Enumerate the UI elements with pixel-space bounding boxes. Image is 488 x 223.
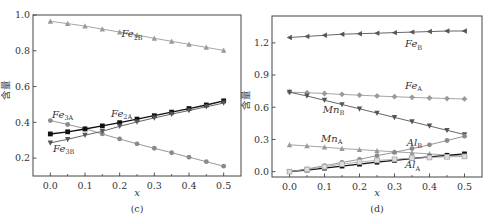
triangle-left-marker <box>392 30 397 35</box>
series-fea: FeA <box>287 80 468 102</box>
y-tick-label: 0.2 <box>15 152 30 163</box>
triangle-left-marker <box>374 30 379 35</box>
diamond-marker <box>427 95 433 101</box>
x-tick-label: 0.0 <box>282 181 297 192</box>
x-tick-label: 0.5 <box>216 180 231 191</box>
x-tick-label: 0.2 <box>352 181 367 192</box>
open-square-marker <box>462 154 467 159</box>
circle-marker <box>65 122 70 127</box>
square-marker <box>83 127 88 132</box>
series-label: Fe2B <box>120 28 142 42</box>
circle-marker <box>135 141 140 146</box>
series-fe3b: Fe3B <box>48 101 227 157</box>
square-marker <box>65 129 70 134</box>
series-label: Fe2A <box>110 108 132 122</box>
circle-marker <box>117 137 122 142</box>
series-fe2b: Fe2B <box>48 18 227 52</box>
circle-marker <box>445 138 450 143</box>
open-square-marker <box>287 169 292 174</box>
circle-marker <box>427 142 432 147</box>
x-tick-label: 0.5 <box>457 181 472 192</box>
x-axis-label: x <box>134 187 140 198</box>
x-tick-label: 0.0 <box>43 180 58 191</box>
diamond-marker <box>322 91 328 97</box>
triangle-left-marker <box>409 29 414 34</box>
open-square-marker <box>375 158 380 163</box>
open-square-marker <box>392 157 397 162</box>
x-tick-label: 0.3 <box>387 181 402 192</box>
series-label: FeA <box>404 80 422 94</box>
y-tick-label: 1.0 <box>15 9 30 20</box>
circle-marker <box>204 159 209 164</box>
diamond-marker <box>444 96 450 102</box>
open-square-marker <box>340 162 345 167</box>
triangle-left-marker <box>427 29 432 34</box>
diamond-marker <box>374 93 380 99</box>
y-tick-label: 1.2 <box>254 37 269 48</box>
open-square-marker <box>427 155 432 160</box>
triangle-left-marker <box>339 32 344 37</box>
chart-figure: 0.00.10.20.30.40.5x0.20.40.60.81.0含量Fe2B… <box>0 0 488 223</box>
series-label: MnB <box>322 104 345 118</box>
triangle-left-marker <box>444 28 449 33</box>
diamond-marker <box>357 92 363 98</box>
chart-panel-d: 0.00.10.20.30.40.5x0.00.30.60.91.2含量FeBF… <box>240 16 482 214</box>
series-label: AlA <box>404 159 420 173</box>
triangle-left-marker <box>357 31 362 36</box>
y-tick-label: 0.0 <box>254 166 269 177</box>
y-tick-label: 0.9 <box>254 69 269 80</box>
x-tick-label: 0.1 <box>77 180 92 191</box>
circle-marker <box>462 134 467 139</box>
x-tick-label: 0.1 <box>317 181 332 192</box>
x-tick-label: 0.4 <box>422 181 437 192</box>
square-marker <box>48 132 53 137</box>
figure: 0.00.10.20.30.40.5x0.20.40.60.81.0含量Fe2B… <box>0 0 488 223</box>
open-square-marker <box>357 160 362 165</box>
y-tick-label: 0.4 <box>15 117 30 128</box>
diamond-marker <box>409 94 415 100</box>
x-tick-label: 0.4 <box>181 180 196 191</box>
series-label: MnA <box>320 133 343 147</box>
diamond-marker <box>462 96 468 102</box>
triangle-up-marker <box>48 18 53 23</box>
series-feb: FeB <box>287 28 467 51</box>
chart-panel-c: 0.00.10.20.30.40.5x0.20.40.60.81.0含量Fe2B… <box>0 9 241 214</box>
x-tick-label: 0.3 <box>147 180 162 191</box>
circle-marker <box>392 150 397 155</box>
circle-marker <box>221 164 226 169</box>
circle-marker <box>187 155 192 160</box>
y-axis-label: 含量 <box>0 80 11 100</box>
y-axis-label: 含量 <box>240 90 251 110</box>
series-label: FeB <box>404 38 422 52</box>
circle-marker <box>152 146 157 151</box>
y-tick-label: 0.6 <box>15 81 30 92</box>
circle-marker <box>169 150 174 155</box>
triangle-left-marker <box>462 28 467 33</box>
diamond-marker <box>339 91 345 97</box>
open-square-marker <box>305 167 310 172</box>
circle-marker <box>375 153 380 158</box>
series-label: Fe3B <box>52 143 74 157</box>
open-square-marker <box>445 154 450 159</box>
open-square-marker <box>322 164 327 169</box>
x-axis-label: x <box>374 187 380 198</box>
y-tick-label: 0.8 <box>15 45 30 56</box>
series-fe2a: Fe2A <box>48 98 226 136</box>
triangle-left-marker <box>304 34 309 39</box>
triangle-left-marker <box>287 35 292 40</box>
panel-label: (d) <box>370 203 384 214</box>
triangle-left-marker <box>322 33 327 38</box>
y-tick-label: 0.6 <box>254 102 269 113</box>
x-tick-label: 0.2 <box>112 180 127 191</box>
series-label: Fe3A <box>51 109 73 123</box>
panel-label: (c) <box>131 203 144 214</box>
y-tick-label: 0.3 <box>254 134 269 145</box>
open-square-marker <box>410 156 415 161</box>
diamond-marker <box>392 94 398 100</box>
square-marker <box>100 124 105 129</box>
